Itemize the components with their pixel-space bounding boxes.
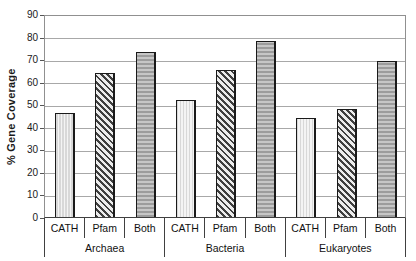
y-tick-mark-80: [40, 38, 44, 39]
category-label-eukaryotes-cath: CATH: [286, 218, 326, 238]
y-tick-label-10: 10: [8, 190, 38, 200]
category-label-archaea-both: Both: [125, 218, 165, 238]
y-gridline-70: [45, 61, 405, 62]
gene-coverage-bar-chart: % Gene Coverage CATHPfamBothCATHPfamBoth…: [0, 0, 416, 261]
category-label-archaea-cath: CATH: [44, 218, 85, 238]
bar-eukaryotes-pfam: [337, 109, 357, 217]
y-tick-mark-10: [40, 195, 44, 196]
category-label-archaea-pfam: Pfam: [85, 218, 125, 238]
category-label-bacteria-both: Both: [246, 218, 286, 238]
y-tick-mark-50: [40, 105, 44, 106]
y-tick-mark-90: [40, 15, 44, 16]
category-label-bacteria-pfam: Pfam: [205, 218, 245, 238]
y-tick-mark-0: [40, 218, 44, 219]
y-tick-label-60: 60: [8, 78, 38, 88]
y-tick-label-0: 0: [8, 213, 38, 223]
y-tick-label-50: 50: [8, 100, 38, 110]
bar-archaea-both: [136, 52, 156, 217]
bar-archaea-pfam: [95, 73, 115, 217]
bar-archaea-cath: [55, 113, 75, 217]
bar-bacteria-pfam: [216, 70, 236, 217]
y-tick-label-20: 20: [8, 168, 38, 178]
bar-eukaryotes-cath: [296, 118, 316, 217]
category-label-eukaryotes-pfam: Pfam: [326, 218, 366, 238]
plot-area: [44, 15, 406, 218]
group-axis-row: ArchaeaBacteriaEukaryotes: [44, 238, 406, 257]
y-tick-mark-70: [40, 60, 44, 61]
y-tick-label-80: 80: [8, 33, 38, 43]
group-label-archaea: Archaea: [44, 238, 165, 257]
category-axis-row: CATHPfamBothCATHPfamBothCATHPfamBoth: [44, 218, 406, 238]
y-tick-label-40: 40: [8, 123, 38, 133]
y-axis-title: % Gene Coverage: [3, 15, 19, 218]
y-tick-label-70: 70: [8, 55, 38, 65]
y-gridline-80: [45, 38, 405, 39]
y-tick-label-30: 30: [8, 145, 38, 155]
category-label-bacteria-cath: CATH: [165, 218, 205, 238]
y-tick-mark-30: [40, 150, 44, 151]
y-tick-mark-40: [40, 128, 44, 129]
bar-bacteria-cath: [176, 100, 196, 217]
y-tick-mark-60: [40, 83, 44, 84]
y-tick-label-90: 90: [8, 10, 38, 20]
bar-bacteria-both: [256, 41, 276, 217]
category-label-eukaryotes-both: Both: [366, 218, 406, 238]
group-label-bacteria: Bacteria: [165, 238, 285, 257]
y-tick-mark-20: [40, 173, 44, 174]
group-label-eukaryotes: Eukaryotes: [286, 238, 406, 257]
bar-eukaryotes-both: [377, 61, 397, 217]
